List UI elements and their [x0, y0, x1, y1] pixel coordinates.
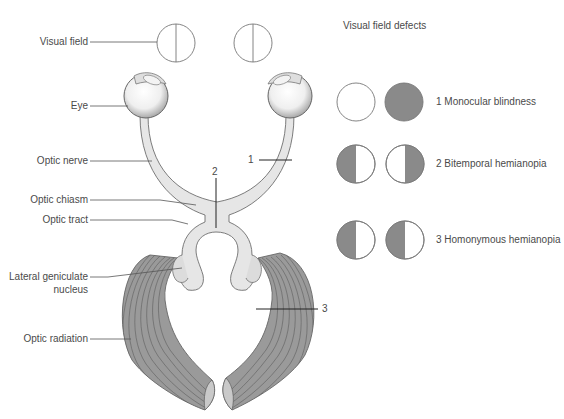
label-optic-radiation: Optic radiation	[24, 333, 88, 345]
defect-3-circles	[337, 221, 424, 259]
anatomy-illustration	[0, 0, 564, 419]
defect-label-1: 1 Monocular blindness	[436, 96, 536, 108]
visual-pathway-diagram: Visual field Eye Optic nerve Optic chias…	[0, 0, 564, 419]
defects-title: Visual field defects	[343, 20, 426, 31]
defect-label-3: 3 Homonymous hemianopia	[436, 234, 561, 246]
defect-2-circles	[337, 145, 424, 183]
label-optic-chiasm: Optic chiasm	[30, 194, 88, 206]
label-optic-tract: Optic tract	[42, 214, 88, 226]
defect-1-circles	[337, 83, 423, 121]
visual-field-left	[157, 24, 195, 62]
lesion-number-3: 3	[322, 303, 328, 315]
label-lgn-line2: nucleus	[54, 284, 88, 296]
label-visual-field: Visual field	[40, 36, 88, 48]
label-eye: Eye	[71, 100, 88, 112]
label-lgn-line1: Lateral geniculate	[9, 271, 88, 283]
lesion-number-2: 2	[212, 166, 218, 178]
eye-left	[124, 73, 168, 118]
defect-label-2: 2 Bitemporal hemianopia	[436, 158, 547, 170]
visual-field-right	[234, 24, 272, 62]
label-optic-nerve: Optic nerve	[37, 155, 88, 167]
eye-right	[268, 73, 312, 118]
lesion-number-1: 1	[248, 154, 254, 166]
